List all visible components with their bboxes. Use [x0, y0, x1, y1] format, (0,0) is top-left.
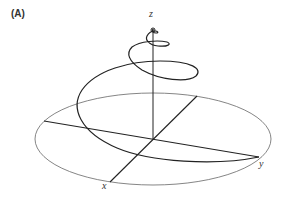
y-axis-line	[44, 121, 259, 157]
spiral-diagram	[0, 0, 282, 197]
